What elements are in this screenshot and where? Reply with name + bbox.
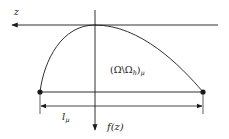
length-label: lμ	[62, 111, 69, 124]
diagram-canvas: z (Ω\Ωh)μ lμ f(z)	[0, 0, 229, 139]
endpoint-right-dot	[200, 89, 205, 94]
endpoint-left-dot	[37, 89, 42, 94]
region-label: (Ω\Ωh)μ	[110, 64, 145, 77]
boundary-curve	[40, 25, 203, 92]
z-axis-label: z	[13, 7, 19, 17]
f-axis-label: f(z)	[106, 121, 124, 132]
